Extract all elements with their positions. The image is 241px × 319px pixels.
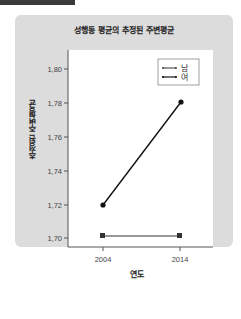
legend: 남 여 <box>158 59 199 85</box>
y-tick-172: 1,72 <box>47 201 62 210</box>
y-tick-178: 1,78 <box>47 99 62 108</box>
y-tick-174: 1,74 <box>47 167 62 176</box>
x-ticks: 2004 2014 <box>95 247 189 264</box>
line-chart: 1,80 1,78 1,76 1,74 1,72 1,70 2004 2014 … <box>0 0 241 319</box>
legend-female-label: 여 <box>181 72 188 82</box>
y-tick-176: 1,76 <box>47 133 62 142</box>
y-ticks: 1,80 1,78 1,76 1,74 1,72 1,70 <box>47 65 68 243</box>
x-tick-2004: 2004 <box>95 255 112 264</box>
y-tick-180: 1,80 <box>47 65 62 74</box>
x-axis-label: 연도 <box>130 268 144 279</box>
y-tick-170: 1,70 <box>47 234 62 243</box>
x-tick-2014: 2014 <box>172 255 189 264</box>
y-axis-label: 추정된 주변평균 <box>27 100 37 159</box>
legend-male-label: 남 <box>181 64 189 73</box>
